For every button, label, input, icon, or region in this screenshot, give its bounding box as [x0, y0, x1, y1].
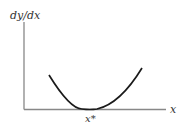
min-point-label: x* — [85, 113, 96, 124]
derivative-diagram: dy/dx x x* — [0, 0, 185, 128]
y-axis-label: dy/dx — [10, 9, 41, 22]
x-axis-label: x — [170, 103, 177, 116]
derivative-curve — [49, 68, 142, 110]
